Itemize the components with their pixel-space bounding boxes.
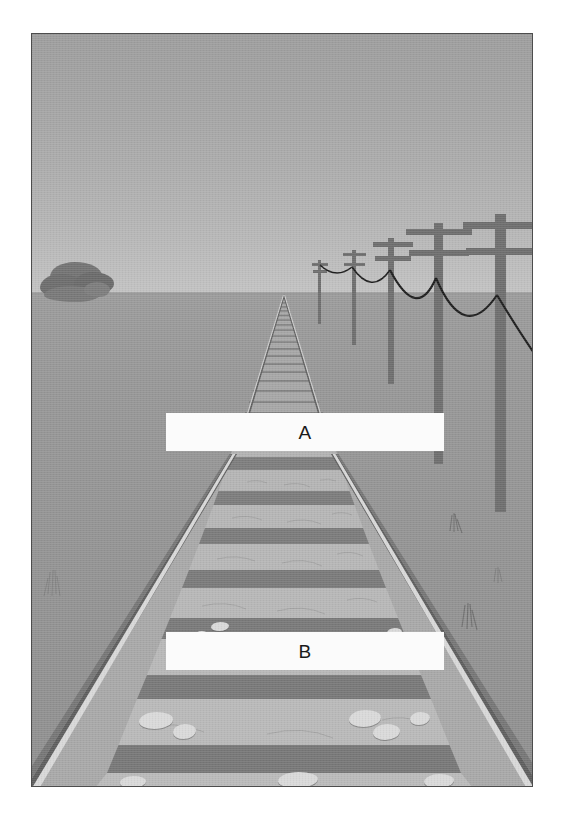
label-b-text: B xyxy=(298,642,311,661)
label-b: B xyxy=(166,632,444,670)
label-a-text: A xyxy=(298,423,311,442)
grass-tufts xyxy=(32,34,533,787)
label-a: A xyxy=(166,413,444,451)
illustration-stage: A B xyxy=(0,0,566,829)
framed-illustration: A B xyxy=(31,33,533,787)
